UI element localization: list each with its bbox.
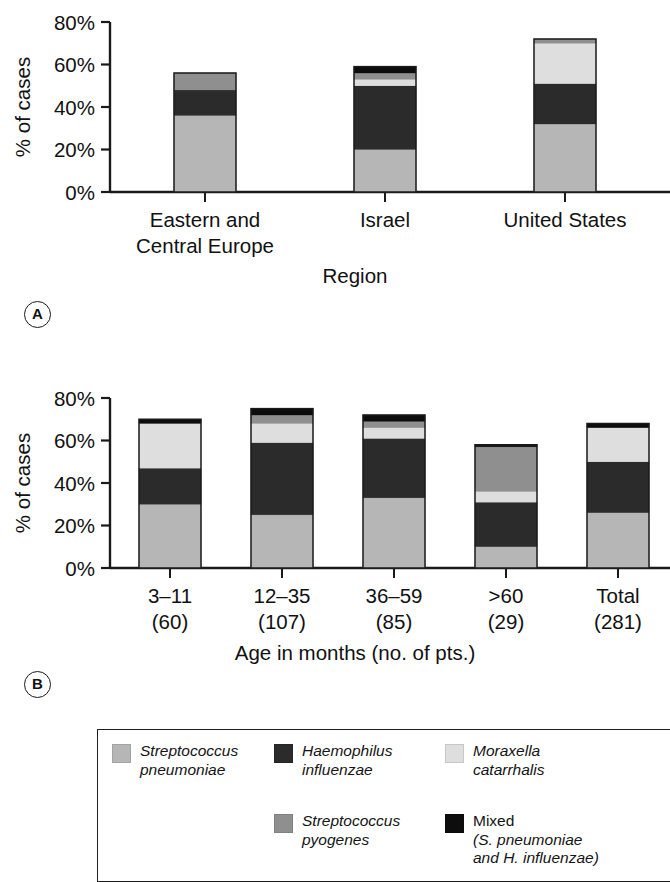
bar-segment	[534, 124, 596, 192]
bar-segment	[354, 79, 416, 85]
bar-segment	[354, 67, 416, 73]
bar-5	[587, 424, 649, 569]
bar-segment	[251, 424, 313, 443]
y-tick-label: 0%	[65, 181, 95, 204]
x-tick-label: (29)	[488, 610, 524, 633]
bar-4	[475, 445, 537, 568]
bar-segment	[363, 438, 425, 498]
legend-label-m-catarrhalis: Moraxella catarrhalis	[473, 742, 545, 779]
bar-segment	[475, 492, 537, 503]
y-tick-label: 20%	[54, 514, 95, 537]
x-tick-label: Eastern and	[150, 208, 261, 231]
x-axis-label: Age in months (no. of pts.)	[235, 641, 475, 664]
legend-item-s-pyogenes: Streptococcus pyogenes	[274, 812, 446, 849]
bar-segment	[354, 150, 416, 193]
y-tick-label: 40%	[54, 472, 95, 495]
bar-1	[174, 73, 236, 192]
panel-b-chart: 0%20%40%60%80%% of cases3–11(60)12–35(10…	[0, 370, 670, 710]
legend-label-h-influenzae: Haemophilus influenzae	[302, 742, 392, 779]
y-tick-label: 80%	[54, 387, 95, 410]
y-tick-label: 60%	[54, 53, 95, 76]
y-axis-label: % of cases	[11, 433, 34, 533]
bar-segment	[139, 468, 201, 504]
bar-segment	[363, 498, 425, 568]
bar-2	[251, 409, 313, 568]
bar-segment	[587, 513, 649, 568]
bar-segment	[587, 462, 649, 513]
x-tick-label: (107)	[258, 610, 306, 633]
panel-b-letter: B	[24, 671, 51, 698]
bar-segment	[354, 86, 416, 150]
bar-segment	[534, 43, 596, 83]
legend-item-m-catarrhalis: Moraxella catarrhalis	[445, 742, 670, 779]
bar-segment	[475, 547, 537, 568]
bar-segment	[251, 443, 313, 515]
bar-segment	[475, 447, 537, 492]
legend-label-mixed-line1: Mixed	[473, 812, 514, 829]
y-tick-label: 60%	[54, 429, 95, 452]
bar-3	[534, 39, 596, 192]
x-tick-label: Central Europe	[136, 234, 274, 257]
bar-segment	[363, 421, 425, 427]
bar-segment	[251, 415, 313, 424]
y-tick-label: 40%	[54, 96, 95, 119]
x-tick-label: >60	[489, 584, 524, 607]
x-tick-label: (85)	[376, 610, 412, 633]
x-tick-label: 36–59	[365, 584, 422, 607]
legend-swatch-m-catarrhalis	[445, 744, 464, 763]
legend-item-mixed: Mixed(S. pneumoniaeand H. influenzae)	[445, 812, 670, 868]
legend: Streptococcus pneumoniae Haemophilus inf…	[97, 729, 670, 882]
x-tick-label: 12–35	[253, 584, 310, 607]
panel-a-chart: 0%20%40%60%80%% of casesEastern andCentr…	[0, 0, 670, 340]
legend-swatch-h-influenzae	[274, 744, 293, 763]
panel-a-letter: A	[24, 301, 51, 328]
x-axis-label: Region	[323, 264, 388, 287]
x-tick-label: United States	[503, 208, 626, 231]
legend-label-s-pyogenes: Streptococcus pyogenes	[302, 812, 400, 849]
bar-segment	[363, 428, 425, 439]
x-tick-label: (281)	[594, 610, 642, 633]
legend-swatch-mixed	[445, 814, 464, 833]
bar-segment	[139, 424, 201, 469]
legend-label-mixed-line3: and H. influenzae)	[473, 849, 599, 866]
legend-item-s-pneumoniae: Streptococcus pneumoniae	[112, 742, 276, 779]
bar-2	[354, 67, 416, 192]
legend-column-2: Haemophilus influenzae Streptococcus pyo…	[274, 742, 446, 859]
y-tick-label: 0%	[65, 557, 95, 580]
legend-label-s-pneumoniae: Streptococcus pneumoniae	[140, 742, 238, 779]
x-tick-label: (60)	[152, 610, 188, 633]
bar-segment	[174, 73, 236, 90]
y-axis-label: % of cases	[11, 57, 34, 157]
legend-label-mixed: Mixed(S. pneumoniaeand H. influenzae)	[473, 812, 599, 868]
bar-segment	[475, 502, 537, 547]
bar-segment	[174, 116, 236, 193]
legend-column-3: Moraxella catarrhalis Mixed(S. pneumonia…	[445, 742, 670, 878]
legend-swatch-s-pneumoniae	[112, 744, 131, 763]
bar-segment	[139, 504, 201, 568]
legend-swatch-s-pyogenes	[274, 814, 293, 833]
bar-segment	[363, 415, 425, 421]
bar-segment	[251, 515, 313, 568]
bar-segment	[174, 90, 236, 116]
x-tick-label: 3–11	[148, 584, 192, 607]
bar-1	[139, 419, 201, 568]
legend-item-h-influenzae: Haemophilus influenzae	[274, 742, 446, 779]
bar-segment	[534, 84, 596, 124]
x-tick-label: Israel	[360, 208, 410, 231]
y-tick-label: 80%	[54, 11, 95, 34]
bar-segment	[587, 428, 649, 462]
bar-3	[363, 415, 425, 568]
bar-segment	[354, 73, 416, 79]
stacked-bar-figure: 0%20%40%60%80%% of casesEastern andCentr…	[0, 0, 670, 882]
panel-b-plot: 0%20%40%60%80%% of cases3–11(60)12–35(10…	[0, 370, 670, 710]
bar-segment	[251, 409, 313, 415]
y-tick-label: 20%	[54, 138, 95, 161]
panel-a-plot: 0%20%40%60%80%% of casesEastern andCentr…	[0, 0, 670, 340]
legend-column-1: Streptococcus pneumoniae	[112, 742, 276, 789]
x-tick-label: Total	[596, 584, 639, 607]
legend-label-mixed-line2: (S. pneumoniae	[473, 831, 582, 848]
